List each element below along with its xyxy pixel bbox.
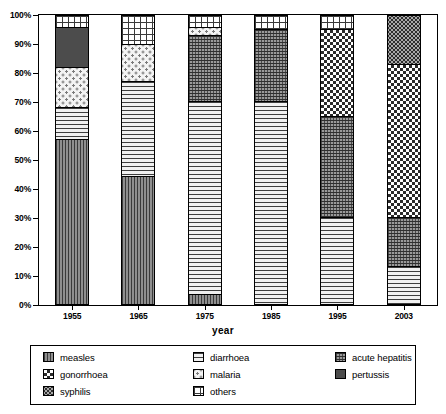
bar-slot [172, 15, 238, 305]
legend-label: others [210, 386, 236, 397]
legend-swatch-icon [335, 352, 346, 362]
legend-swatch-icon [335, 369, 346, 379]
x-tick-mark [138, 306, 139, 310]
stacked-bar[interactable] [188, 15, 222, 305]
y-tick-label: 20% [15, 242, 31, 252]
y-tick-label: 90% [15, 39, 31, 49]
bar-segment[interactable] [388, 267, 420, 304]
x-axis-labels: 195519651975198519952003 [39, 311, 437, 325]
legend: measlesgonorrhoeasyphilisdiarrhoeamalari… [30, 345, 416, 405]
legend-item-malaria[interactable]: malaria [193, 367, 335, 381]
stacked-bar[interactable] [121, 15, 155, 305]
y-tick-label: 60% [15, 126, 31, 136]
bar-segment[interactable] [122, 82, 154, 177]
bar-segment[interactable] [56, 16, 88, 28]
x-tick-mark [337, 306, 338, 310]
legend-label: diarrhoea [210, 352, 249, 363]
x-tick-label: 2003 [371, 311, 437, 325]
legend-swatch-icon [193, 352, 204, 362]
bar-segment[interactable] [122, 45, 154, 82]
legend-item-syphilis[interactable]: syphilis [43, 384, 193, 398]
bar-segment[interactable] [321, 16, 353, 30]
y-tick-label: 40% [15, 184, 31, 194]
bar-segment[interactable] [56, 28, 88, 68]
bar-segment[interactable] [189, 28, 221, 37]
bar-group [39, 15, 437, 305]
bar-segment[interactable] [189, 295, 221, 304]
legend-column: measlesgonorrhoeasyphilis [43, 350, 193, 404]
x-tick-label: 1975 [172, 311, 238, 325]
stacked-bar[interactable] [55, 15, 89, 305]
legend-swatch-icon [193, 386, 204, 396]
y-tick-label: 70% [15, 97, 31, 107]
bar-segment[interactable] [189, 36, 221, 102]
legend-item-others[interactable]: others [193, 384, 335, 398]
legend-label: malaria [210, 369, 240, 380]
legend-label: measles [60, 352, 95, 363]
y-tick-label: 50% [15, 155, 31, 165]
bar-segment[interactable] [56, 68, 88, 108]
legend-label: gonorrhoea [60, 369, 108, 380]
bar-segment[interactable] [56, 108, 88, 140]
bar-segment[interactable] [321, 218, 353, 304]
y-tick-label: 0% [19, 300, 31, 310]
bar-segment[interactable] [255, 30, 287, 102]
x-axis-title: year [0, 325, 446, 336]
bar-segment[interactable] [388, 16, 420, 65]
bar-segment[interactable] [122, 177, 154, 304]
bar-segment[interactable] [189, 16, 221, 28]
legend-item-pertussis[interactable]: pertussis [335, 367, 412, 381]
y-tick-label: 80% [15, 68, 31, 78]
y-tick-label: 100% [10, 10, 31, 20]
x-tick-label: 1965 [105, 311, 171, 325]
stacked-bar[interactable] [254, 15, 288, 305]
bar-slot [371, 15, 437, 305]
x-tick-mark [205, 306, 206, 310]
y-tick-label: 30% [15, 213, 31, 223]
legend-label: pertussis [352, 369, 389, 380]
x-tick-label: 1995 [304, 311, 370, 325]
legend-swatch-icon [43, 352, 54, 362]
stacked-bar[interactable] [320, 15, 354, 305]
x-tick-label: 1955 [39, 311, 105, 325]
x-tick-mark [72, 306, 73, 310]
legend-item-diarrhoea[interactable]: diarrhoea [193, 350, 335, 364]
legend-item-measles[interactable]: measles [43, 350, 193, 364]
bar-slot [39, 15, 105, 305]
bar-segment[interactable] [56, 140, 88, 304]
legend-item-gonorrhoea[interactable]: gonorrhoea [43, 367, 193, 381]
legend-label: acute hepatitis [352, 352, 412, 363]
bar-slot [238, 15, 304, 305]
x-tick-label: 1985 [238, 311, 304, 325]
bar-segment[interactable] [388, 65, 420, 218]
legend-column: diarrhoeamalariaothers [193, 350, 335, 404]
stacked-bar-chart: 0%10%20%30%40%50%60%70%80%90%100% 195519… [0, 0, 446, 414]
legend-swatch-icon [43, 369, 54, 379]
bar-segment[interactable] [122, 16, 154, 45]
plot-right-rule [437, 14, 438, 306]
bar-segment[interactable] [255, 102, 287, 304]
bar-slot [304, 15, 370, 305]
legend-label: syphilis [60, 386, 90, 397]
y-tick-label: 10% [15, 271, 31, 281]
legend-item-acute-hepatitis[interactable]: acute hepatitis [335, 350, 412, 364]
legend-column: acute hepatitispertussis [335, 350, 412, 404]
bar-segment[interactable] [189, 102, 221, 295]
legend-swatch-icon [193, 369, 204, 379]
bar-slot [105, 15, 171, 305]
x-tick-mark [271, 306, 272, 310]
legend-swatch-icon [43, 386, 54, 396]
bar-segment[interactable] [255, 16, 287, 30]
y-axis: 0%10%20%30%40%50%60%70%80%90%100% [0, 0, 38, 306]
x-tick-mark [404, 306, 405, 310]
bar-segment[interactable] [321, 117, 353, 218]
stacked-bar[interactable] [387, 15, 421, 305]
bar-segment[interactable] [321, 30, 353, 116]
bar-segment[interactable] [388, 218, 420, 267]
